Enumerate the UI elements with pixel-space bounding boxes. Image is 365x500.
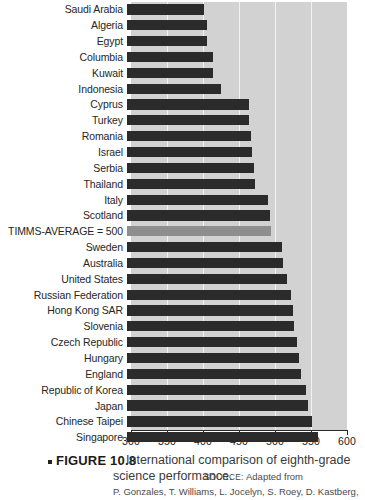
bar: [127, 385, 306, 395]
bar-row: England: [0, 366, 365, 382]
category-label: Cyprus: [0, 99, 127, 110]
bar-track: [127, 18, 343, 34]
bar-row: Japan: [0, 398, 365, 414]
category-label: Columbia: [0, 52, 127, 63]
category-label: Thailand: [0, 179, 127, 190]
bar-row: United States: [0, 271, 365, 287]
bar-row: Chinese Taipei: [0, 414, 365, 430]
bar-row: Scotland: [0, 208, 365, 224]
bar-row: Slovenia: [0, 319, 365, 335]
bar-row: Singapore: [0, 430, 365, 446]
figure-number: FIGURE 10.8: [56, 453, 136, 468]
category-label: England: [0, 369, 127, 380]
bar: [127, 400, 308, 410]
bar-track: [127, 366, 343, 382]
bar: [127, 84, 221, 94]
bar-track: [127, 224, 343, 240]
source-text-line-1: Adapted from: [246, 471, 303, 482]
bar-track: [127, 97, 343, 113]
category-label: Singapore: [0, 432, 127, 443]
category-label: Chinese Taipei: [0, 416, 127, 427]
bar-track: [127, 208, 343, 224]
bar: [127, 99, 249, 109]
bar-track: [127, 50, 343, 66]
bar-row: Thailand: [0, 176, 365, 192]
category-label: Sweden: [0, 242, 127, 253]
bar-row: Egypt: [0, 34, 365, 50]
category-label: Indonesia: [0, 84, 127, 95]
source-text-line-2: P. Gonzales, T. Williams, L. Jocelyn, S.…: [113, 486, 359, 497]
bar-row: Australia: [0, 256, 365, 272]
bar: [127, 353, 299, 363]
bar: [127, 195, 268, 205]
bar-row: Saudi Arabia: [0, 2, 365, 18]
bar: [127, 321, 294, 331]
bar: [127, 432, 318, 442]
bar-row: Italy: [0, 192, 365, 208]
category-label: Egypt: [0, 36, 127, 47]
category-label: Republic of Korea: [0, 385, 127, 396]
bar-row: Serbia: [0, 160, 365, 176]
bar-row: Hong Kong SAR: [0, 303, 365, 319]
bar-track: [127, 382, 343, 398]
chart-plot-wrapper: 300350400450500550600 Saudi ArabiaAlgeri…: [0, 0, 365, 432]
bar-track: [127, 319, 343, 335]
category-label: Algeria: [0, 20, 127, 31]
bar-track: [127, 256, 343, 272]
bar: [127, 290, 291, 300]
bar: [127, 337, 297, 347]
bar-track: [127, 192, 343, 208]
bar-row: Cyprus: [0, 97, 365, 113]
bar-row: Romania: [0, 129, 365, 145]
bar-track: [127, 287, 343, 303]
bar: [127, 115, 249, 125]
category-label: Romania: [0, 131, 127, 142]
category-label: Italy: [0, 195, 127, 206]
category-label: Serbia: [0, 163, 127, 174]
bar-row: Turkey: [0, 113, 365, 129]
bar: [127, 147, 252, 157]
category-label: TIMMS-AVERAGE = 500: [0, 226, 127, 237]
bar: [127, 20, 207, 30]
bar-track: [127, 335, 343, 351]
figure-caption: FIGURE 10.8 International comparison of …: [0, 452, 365, 500]
square-bullet-icon: [48, 460, 52, 464]
category-label: Czech Republic: [0, 337, 127, 348]
category-label: Saudi Arabia: [0, 4, 127, 15]
category-label: Israel: [0, 147, 127, 158]
bar: [127, 163, 254, 173]
category-label: Slovenia: [0, 321, 127, 332]
category-label: Turkey: [0, 115, 127, 126]
category-label: Hungary: [0, 353, 127, 364]
bar-track: [127, 398, 343, 414]
source-label: SOURCE:: [204, 472, 244, 482]
bar-track: [127, 176, 343, 192]
category-label: Russian Federation: [0, 290, 127, 301]
bar: [127, 305, 293, 315]
bar-row: Algeria: [0, 18, 365, 34]
bar: [127, 274, 287, 284]
bar-row: Hungary: [0, 351, 365, 367]
bar-track: [127, 113, 343, 129]
bar-track: [127, 65, 343, 81]
bar-row: Columbia: [0, 50, 365, 66]
figure-10-8: 300350400450500550600 Saudi ArabiaAlgeri…: [0, 0, 365, 448]
bar: [127, 179, 255, 189]
bar: [127, 4, 204, 14]
bar-track: [127, 145, 343, 161]
bar-track: [127, 160, 343, 176]
bar-row: TIMMS-AVERAGE = 500: [0, 224, 365, 240]
bar: [127, 131, 251, 141]
bar-track: [127, 34, 343, 50]
category-label: Kuwait: [0, 68, 127, 79]
bar: [127, 416, 312, 426]
bar: [127, 52, 213, 62]
bar-track: [127, 414, 343, 430]
bar-row: Czech Republic: [0, 335, 365, 351]
bar: [127, 226, 271, 236]
bar-track: [127, 81, 343, 97]
category-label: Hong Kong SAR: [0, 305, 127, 316]
bar: [127, 242, 282, 252]
bar-rows: Saudi ArabiaAlgeriaEgyptColumbiaKuwaitIn…: [0, 2, 365, 446]
bar: [127, 210, 270, 220]
